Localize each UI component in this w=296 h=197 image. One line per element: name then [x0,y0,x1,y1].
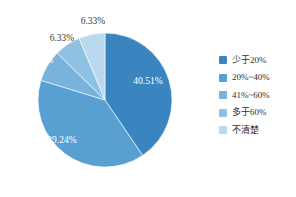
pie-slice-label: 6.33% [50,33,75,43]
legend-swatch-icon [219,126,227,134]
legend-item-label: 41%~60% [232,91,270,100]
pie-slice-group [38,33,172,167]
legend-swatch-icon [219,109,227,117]
chart-legend: 少于20%20%~40%41%~60%多于60%不清楚 [219,54,296,136]
legend-swatch-icon [219,74,227,82]
pie-slice-label: 39.24% [47,135,76,145]
pie-plot-area: 40.51%39.24%7.59%6.33%6.33% [0,0,212,197]
legend-swatch-icon [219,56,227,64]
pie-slice-label: 6.33% [81,16,106,26]
legend-swatch-icon [219,91,227,99]
legend-item[interactable]: 41%~60% [219,89,296,101]
pie-svg: 40.51%39.24%7.59%6.33%6.33% [0,0,212,197]
legend-item[interactable]: 20%~40% [219,72,296,84]
pie-slice-label: 7.59% [29,55,54,65]
legend-item[interactable]: 多于60% [219,107,296,119]
legend-item[interactable]: 少于20% [219,54,296,66]
legend-item[interactable]: 不清楚 [219,124,296,136]
legend-item-label: 少于20% [232,56,267,65]
legend-item-label: 多于60% [232,108,267,117]
pie-chart-figure: 40.51%39.24%7.59%6.33%6.33% 少于20%20%~40%… [0,0,296,197]
pie-slice-label: 40.51% [133,76,162,86]
legend-item-label: 20%~40% [232,73,270,82]
legend-item-label: 不清楚 [232,126,259,135]
